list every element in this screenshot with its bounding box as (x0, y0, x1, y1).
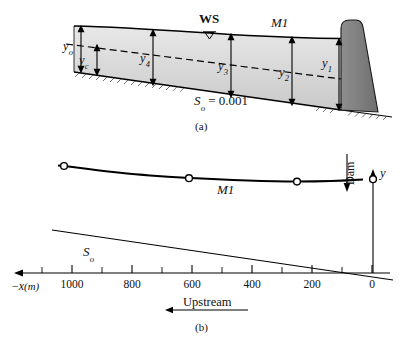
x-tick-label-400: 400 (238, 279, 266, 291)
y-1-label: y1 (322, 57, 332, 72)
y-3-label: y3 (218, 60, 228, 75)
data-point-marker (370, 176, 377, 183)
dam-label: Dam (344, 162, 356, 185)
figure-container: WS M1 yo yc y4 y3 y2 y1 So = 0.001 (a) (0, 0, 401, 341)
x-axis-arrowhead-icon (14, 270, 23, 277)
dam-structure (341, 20, 378, 112)
slope-equation-label: So = 0.001 (194, 94, 248, 110)
m1-profile-curve (64, 166, 363, 181)
x-tick-label-1000: 1000 (56, 279, 88, 291)
x-tick-label-200: 200 (298, 279, 326, 291)
m1-label-panel-a: M1 (271, 16, 288, 29)
panel-b-chart (0, 140, 401, 341)
data-point-marker (61, 163, 68, 170)
data-point-marker (294, 178, 301, 185)
x-tick-label-600: 600 (178, 279, 206, 291)
upstream-label: Upstream (183, 296, 232, 309)
y-2-label: y2 (279, 66, 289, 81)
panel-a-caption: (a) (195, 121, 208, 132)
x-tick-label-0: 0 (362, 279, 382, 291)
y-c-label: yc (79, 54, 88, 69)
x-tick-label-800: 800 (118, 279, 146, 291)
so-label-panel-b: So (83, 245, 94, 261)
panel-b-caption: (b) (195, 322, 208, 333)
data-point-marker (186, 175, 193, 182)
m1-label-panel-b: M1 (217, 183, 234, 196)
upstream-arrowhead-icon (165, 307, 173, 313)
y-o-label: yo (63, 40, 73, 55)
y-4-label: y4 (140, 52, 150, 67)
y-axis-label: y (380, 167, 386, 180)
x-axis-label: −x(m) (12, 280, 39, 292)
ws-label: WS (199, 12, 219, 25)
